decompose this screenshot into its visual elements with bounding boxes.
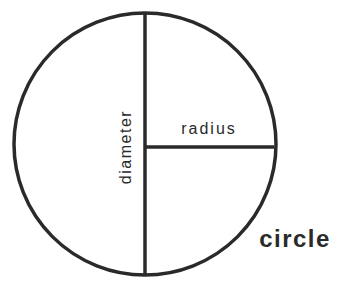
circle-title: circle [259,225,331,252]
diameter-label: diameter [117,110,134,184]
radius-label: radius [181,120,237,137]
circle-diagram: diameter radius circle [0,0,362,290]
